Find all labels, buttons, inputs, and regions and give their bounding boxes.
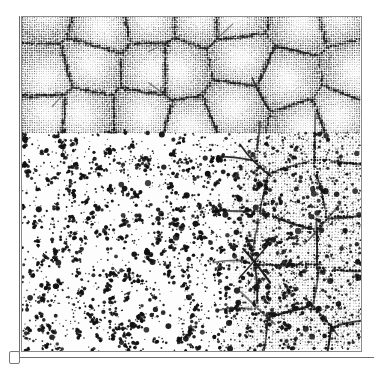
figure-root: Dense dot-matrix foam cells Sparse speck… bbox=[0, 0, 376, 377]
foam-micrograph-svg bbox=[22, 17, 361, 351]
micrograph-panel bbox=[21, 16, 362, 352]
corner-handle[interactable] bbox=[9, 351, 20, 364]
axis-line-vertical bbox=[19, 16, 20, 357]
axis-line-horizontal bbox=[19, 357, 374, 358]
